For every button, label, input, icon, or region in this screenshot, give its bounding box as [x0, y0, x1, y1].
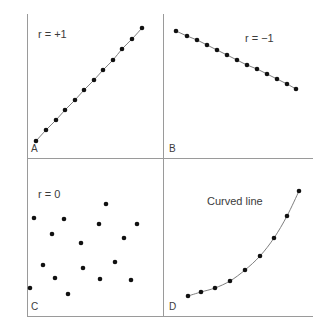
- data-point: [28, 286, 33, 291]
- data-point: [53, 276, 58, 281]
- data-point: [215, 48, 220, 53]
- panel-d-letter: D: [169, 301, 176, 312]
- data-point: [54, 118, 59, 123]
- data-point: [79, 241, 84, 246]
- data-point: [285, 214, 290, 219]
- panel-a-letter: A: [31, 143, 38, 154]
- data-point: [81, 266, 86, 271]
- data-point: [195, 38, 200, 43]
- data-point: [92, 78, 97, 83]
- data-point: [205, 43, 210, 48]
- data-point: [62, 217, 67, 222]
- panel-b-annotation: r = −1: [245, 32, 274, 44]
- data-point: [243, 268, 248, 273]
- data-point: [111, 58, 116, 63]
- data-point: [258, 254, 263, 259]
- data-point: [213, 286, 218, 291]
- data-point: [228, 279, 233, 284]
- data-point: [199, 290, 204, 295]
- panel-b-letter: B: [169, 143, 176, 154]
- figure-background: [0, 0, 319, 330]
- data-point: [130, 37, 135, 42]
- panel-d-annotation: Curved line: [207, 195, 263, 207]
- data-point: [66, 292, 71, 297]
- data-point: [285, 82, 290, 87]
- data-point: [174, 29, 179, 34]
- data-point: [82, 88, 87, 93]
- data-point: [294, 87, 299, 92]
- figure-canvas: r = +1 A r = −1 B r = 0 C Curved line D: [0, 0, 319, 330]
- data-point: [50, 232, 55, 237]
- data-point: [255, 67, 260, 72]
- data-point: [140, 26, 145, 31]
- data-point: [225, 53, 230, 58]
- panel-a-annotation: r = +1: [38, 28, 67, 40]
- data-point: [135, 222, 140, 227]
- data-point: [186, 294, 191, 299]
- correlation-figure: r = +1 A r = −1 B r = 0 C Curved line D: [0, 0, 319, 330]
- data-point: [63, 108, 68, 113]
- data-point: [235, 58, 240, 63]
- panel-c-letter: C: [31, 301, 38, 312]
- data-point: [97, 222, 102, 227]
- data-point: [120, 47, 125, 52]
- data-point: [32, 216, 37, 221]
- data-point: [185, 34, 190, 39]
- data-point: [275, 77, 280, 82]
- data-point: [297, 189, 302, 194]
- data-point: [44, 128, 49, 133]
- data-point: [245, 63, 250, 68]
- panel-c-annotation: r = 0: [38, 188, 60, 200]
- data-point: [122, 236, 127, 241]
- data-point: [41, 263, 46, 268]
- data-point: [113, 260, 118, 265]
- data-point: [98, 277, 103, 282]
- data-point: [265, 72, 270, 77]
- data-point: [104, 202, 109, 207]
- data-point: [272, 236, 277, 241]
- data-point: [101, 68, 106, 73]
- data-point: [73, 98, 78, 103]
- data-point: [129, 278, 134, 283]
